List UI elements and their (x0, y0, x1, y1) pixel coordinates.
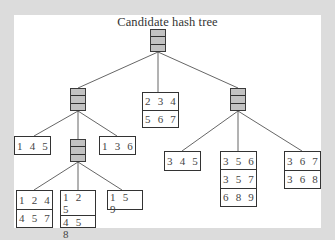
hash-bucket (151, 36, 165, 43)
hash-node-right (230, 88, 246, 111)
hash-node-left-middle (70, 139, 86, 162)
hash-bucket (71, 95, 85, 102)
leaf-root-middle: 2 3 4 5 6 7 (142, 92, 179, 128)
hash-bucket (71, 154, 85, 161)
itemset: 3 6 7 (285, 152, 320, 170)
leaf-left-middle-middle: 1 2 5 4 5 8 (60, 190, 96, 228)
itemset: 3 6 8 (285, 170, 320, 189)
hash-bucket (71, 146, 85, 153)
itemset: 1 2 5 (61, 191, 95, 215)
itemset: 3 4 5 (165, 152, 200, 170)
itemset: 6 8 9 (221, 188, 256, 206)
itemset: 3 5 7 (221, 169, 256, 187)
itemset: 5 6 7 (143, 110, 178, 128)
itemset: 1 5 9 (108, 191, 142, 215)
itemset: 1 3 6 (100, 137, 135, 154)
leaf-left-middle-right: 1 5 9 (107, 190, 143, 210)
hash-node-root (150, 29, 166, 52)
hash-bucket (231, 103, 245, 110)
leaf-left-middle-left: 1 2 4 4 5 7 (16, 190, 53, 228)
itemset: 4 5 8 (61, 215, 95, 240)
hash-node-left (70, 88, 86, 111)
itemset: 1 2 4 (17, 191, 52, 209)
leaf-right-left: 3 4 5 (164, 151, 201, 171)
leaf-left-left: 1 4 5 (14, 136, 51, 155)
hash-bucket (151, 44, 165, 51)
itemset: 2 3 4 (143, 93, 178, 110)
itemset: 3 5 6 (221, 152, 256, 169)
hash-bucket (71, 103, 85, 110)
leaf-left-right: 1 3 6 (99, 136, 136, 155)
leaf-right-right: 3 6 7 3 6 8 (284, 151, 321, 189)
itemset: 1 4 5 (15, 137, 50, 154)
itemset: 4 5 7 (17, 209, 52, 228)
hash-bucket (231, 95, 245, 102)
leaf-right-middle: 3 5 6 3 5 7 6 8 9 (220, 151, 257, 207)
